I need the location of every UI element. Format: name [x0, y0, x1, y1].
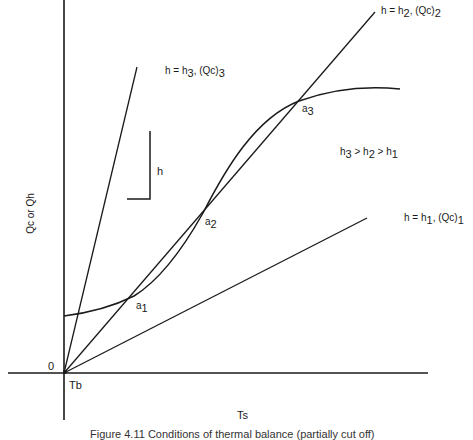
- line-label-h3: h = h3, (Qc)3: [165, 66, 225, 79]
- slope-triangle: [127, 131, 150, 199]
- heat-generation-curve: [64, 88, 400, 316]
- y-axis-label: Qc or Qh: [25, 193, 36, 234]
- line-h3: [64, 67, 137, 373]
- line-label-h1: h = h1, (Qc)1: [404, 213, 464, 226]
- inequality-label: h3 > h2 > h1: [340, 147, 398, 160]
- x-axis-label: Ts: [237, 410, 248, 421]
- point-a1: a1: [136, 301, 148, 314]
- origin-dot: [63, 370, 67, 374]
- slope-h-label: h: [157, 166, 163, 177]
- line-label-h2: h = h2, (Qc)2: [381, 6, 441, 19]
- line-h1: [64, 218, 367, 373]
- point-a3: a3: [302, 104, 314, 117]
- point-a2: a2: [205, 217, 217, 230]
- tb-label: Tb: [69, 380, 82, 391]
- origin-label: 0: [48, 361, 54, 372]
- figure-caption: Figure 4.11 Conditions of thermal balanc…: [90, 428, 375, 440]
